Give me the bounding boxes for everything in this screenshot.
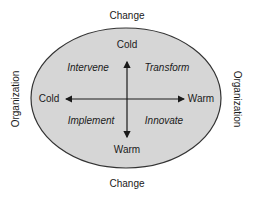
outer-label-right: Organization	[231, 71, 243, 128]
axis-label-left: Cold	[39, 93, 60, 105]
quadrant-bottom-right: Innovate	[145, 115, 183, 127]
quadrant-top-left: Intervene	[67, 62, 109, 74]
outer-label-bottom: Change	[109, 178, 144, 190]
outer-label-top: Change	[109, 10, 144, 22]
quadrant-bottom-left: Implement	[68, 115, 115, 127]
axis-label-bottom: Warm	[114, 144, 140, 156]
axis-label-top: Cold	[117, 39, 138, 51]
outer-label-left: Organization	[10, 71, 22, 128]
axis-label-right: Warm	[188, 93, 214, 105]
quadrant-top-right: Transform	[145, 62, 190, 74]
